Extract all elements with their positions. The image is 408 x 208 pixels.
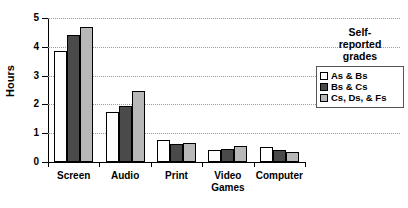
legend-item[interactable]: Cs, Ds, & Fs	[320, 93, 400, 103]
x-tick	[202, 162, 203, 167]
legend-swatch-icon	[320, 94, 328, 102]
bar-chart-figure: Hours 012345 ScreenAudioPrintVideoGamesC…	[0, 0, 408, 208]
legend-item[interactable]: Bs & Cs	[320, 82, 400, 92]
legend-item-label: Bs & Cs	[331, 82, 367, 92]
legend-title-line: grades	[316, 50, 404, 62]
x-tick	[151, 162, 152, 167]
y-tick-label: 3	[26, 71, 39, 81]
bar-group	[54, 18, 93, 162]
y-axis-title: Hours	[4, 49, 16, 113]
x-tick	[254, 162, 255, 167]
bar-group	[208, 18, 247, 162]
x-tick-label-line: Computer	[239, 170, 319, 182]
x-tick-label-line: Games	[188, 182, 268, 194]
axis-baseline	[48, 162, 305, 163]
y-tick-label: 1	[26, 128, 39, 138]
x-tick-label: Computer	[239, 170, 319, 182]
plot-area	[48, 18, 305, 162]
bar	[208, 150, 221, 162]
legend-title: Self-reportedgrades	[316, 26, 404, 62]
bar	[119, 106, 132, 162]
y-tick-label: 5	[26, 13, 39, 23]
x-tick	[99, 162, 100, 167]
x-tick	[305, 162, 306, 167]
y-tick-label: 4	[26, 42, 39, 52]
legend-title-line: reported	[316, 38, 404, 50]
y-tick-label: 0	[26, 157, 39, 167]
bar	[170, 144, 183, 162]
bar	[132, 91, 145, 162]
legend-box: As & BsBs & CsCs, Ds, & Fs	[316, 66, 404, 108]
legend-item-label: As & Bs	[331, 71, 367, 81]
bar	[183, 143, 196, 162]
bar	[54, 51, 67, 162]
legend-title-line: Self-	[316, 26, 404, 38]
bar-group	[157, 18, 196, 162]
bar	[286, 152, 299, 162]
legend-swatch-icon	[320, 72, 328, 80]
bar	[221, 149, 234, 162]
bar	[234, 146, 247, 162]
bar	[273, 150, 286, 162]
bar	[157, 140, 170, 162]
legend-item[interactable]: As & Bs	[320, 71, 400, 81]
bar	[67, 35, 80, 162]
bar	[106, 112, 119, 162]
bar	[80, 27, 93, 162]
x-tick	[48, 162, 49, 167]
legend: Self-reportedgrades As & BsBs & CsCs, Ds…	[316, 26, 404, 108]
bar-group	[106, 18, 145, 162]
legend-swatch-icon	[320, 83, 328, 91]
legend-item-label: Cs, Ds, & Fs	[331, 93, 386, 103]
y-tick-label: 2	[26, 99, 39, 109]
bar-group	[260, 18, 299, 162]
bar	[260, 147, 273, 162]
